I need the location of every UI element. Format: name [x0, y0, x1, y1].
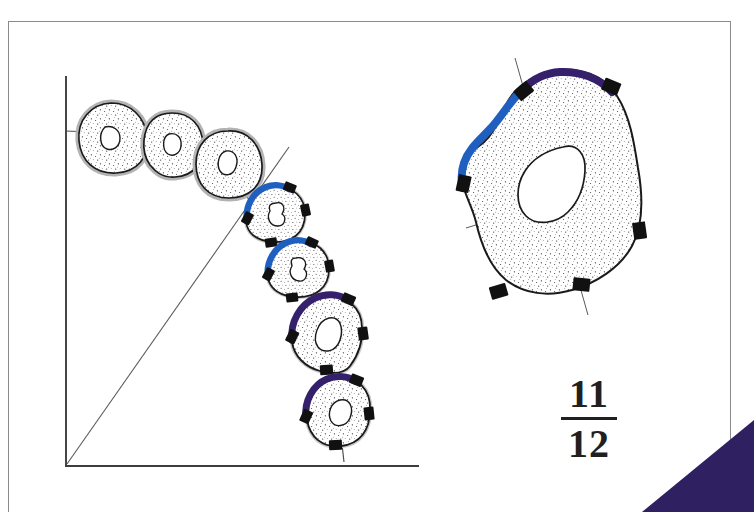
figure-number-denominator: 12 — [553, 424, 625, 464]
enlarged-specimen — [455, 58, 647, 315]
figure-number: 11 12 — [553, 374, 625, 464]
specimen-3-canal — [218, 151, 237, 175]
figure-page: 11 12 — [0, 0, 754, 512]
specimen-1-canal — [101, 127, 120, 150]
specimen-2-canal — [164, 134, 182, 156]
specimen-6 — [285, 292, 369, 375]
specimen-7 — [299, 373, 375, 450]
specimen-5-canal — [290, 258, 306, 281]
specimen-1 — [79, 103, 147, 173]
specimen-4-canal — [268, 203, 284, 226]
figure-number-numerator: 11 — [553, 374, 625, 414]
figure-number-fraction-bar — [561, 417, 617, 420]
specimen-3 — [196, 131, 262, 198]
scientific-figure-illustration — [0, 0, 754, 512]
specimen-7-canal — [329, 400, 351, 426]
